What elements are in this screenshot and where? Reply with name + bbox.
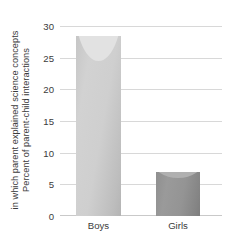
y-tick-label-10: 10 — [28, 147, 54, 158]
bar-girls-fill — [156, 172, 200, 216]
y-tick-label-5: 5 — [28, 179, 54, 190]
bar-chart: Percent of parent-child interactions in … — [0, 0, 230, 239]
bar-boys — [76, 36, 121, 217]
bar-girls-gloss — [156, 172, 200, 178]
y-tick-label-30: 30 — [28, 21, 54, 32]
bar-boys-gloss — [76, 36, 121, 61]
x-tick-label-boys: Boys — [88, 220, 109, 231]
y-tick-label-25: 25 — [28, 52, 54, 63]
y-tick-label-0: 0 — [28, 211, 54, 222]
bar-girls — [156, 172, 200, 216]
y-axis-title-line-2: in which parent explained science concep… — [10, 30, 21, 209]
plot-area — [60, 26, 222, 216]
y-tick-label-20: 20 — [28, 84, 54, 95]
bar-boys-fill — [76, 36, 121, 217]
gridline-30 — [60, 26, 222, 27]
x-tick-label-girls: Girls — [168, 220, 188, 231]
y-tick-label-15: 15 — [28, 116, 54, 127]
